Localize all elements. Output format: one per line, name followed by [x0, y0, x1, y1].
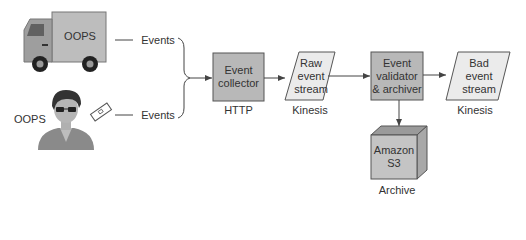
bad-stream-line3: stream	[462, 83, 496, 96]
person-edge-label: Events	[138, 109, 178, 122]
event-collector-caption: HTTP	[213, 104, 264, 117]
raw-stream-line3: stream	[294, 83, 328, 96]
validator-line2: validator	[376, 70, 418, 83]
bad-stream-line1: Bad	[469, 57, 489, 70]
event-collector-line1: Event	[224, 64, 252, 77]
bad-event-stream-caption: Kinesis	[452, 104, 498, 117]
event-validator-text: Event validator & archiver	[371, 55, 423, 97]
amazon-s3-caption: Archive	[374, 184, 420, 197]
person-label: OOPS	[14, 113, 44, 126]
person-icon	[38, 90, 94, 150]
event-collector-line2: collector	[218, 77, 259, 90]
raw-stream-line2: event	[298, 70, 325, 83]
raw-event-stream-text: Raw event stream	[290, 55, 332, 97]
s3-line2: S3	[387, 157, 400, 170]
validator-line1: Event	[383, 57, 411, 70]
merge-brace	[178, 38, 190, 118]
bad-event-stream-text: Bad event stream	[455, 55, 503, 97]
s3-line1: Amazon	[374, 144, 414, 157]
bad-stream-line2: event	[466, 70, 493, 83]
validator-line3: & archiver	[372, 83, 422, 96]
truck-edge-label: Events	[138, 34, 178, 47]
device-icon	[91, 103, 112, 121]
truck-label: OOPS	[62, 30, 98, 43]
raw-stream-line1: Raw	[300, 57, 322, 70]
event-collector-text: Event collector	[213, 58, 264, 96]
raw-event-stream-caption: Kinesis	[288, 104, 332, 117]
amazon-s3-text: Amazon S3	[371, 140, 417, 174]
